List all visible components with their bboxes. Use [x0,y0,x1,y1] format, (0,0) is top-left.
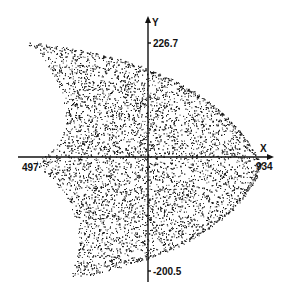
scatter-point [157,140,158,141]
scatter-point [56,75,57,76]
scatter-point [110,68,111,69]
scatter-point [78,82,79,83]
scatter-point [113,179,114,180]
scatter-point [74,176,75,177]
scatter-point [233,190,234,191]
scatter-point [30,45,31,46]
scatter-point [88,105,89,106]
scatter-point [126,71,127,72]
scatter-point [103,232,104,233]
scatter-point [97,131,98,132]
scatter-point [222,123,223,124]
scatter-point [196,141,197,142]
scatter-point [154,117,155,118]
scatter-point [215,143,216,144]
scatter-point [94,200,95,201]
scatter-point [169,104,170,105]
scatter-point [167,78,168,79]
scatter-point [57,81,58,82]
scatter-point [71,122,72,123]
scatter-point [101,146,102,147]
scatter-point [93,69,94,70]
scatter-point [80,180,81,181]
scatter-point [100,86,101,87]
scatter-point [67,167,68,168]
scatter-point [77,69,78,70]
scatter-point [221,165,222,166]
scatter-point [117,102,118,103]
scatter-point [76,103,77,104]
scatter-point [108,110,109,111]
scatter-point [115,106,116,107]
scatter-point [89,252,90,253]
scatter-point [105,83,106,84]
scatter-point [188,93,189,94]
scatter-point [206,189,207,190]
scatter-point [163,245,164,246]
scatter-point [29,45,30,46]
scatter-point [89,174,90,175]
scatter-point [67,130,68,131]
scatter-point [112,170,113,171]
scatter-point [157,119,158,120]
scatter-point [202,208,203,209]
scatter-point [188,131,189,132]
scatter-point [156,164,157,165]
scatter-point [111,209,112,210]
scatter-point [151,148,152,149]
scatter-point [172,145,173,146]
scatter-point [195,214,196,215]
scatter-point [106,61,107,62]
scatter-point [158,190,159,191]
scatter-point [106,158,107,159]
scatter-point [232,191,233,192]
scatter-point [120,87,121,88]
scatter-point [237,199,238,200]
scatter-point [188,194,189,195]
scatter-point [185,124,186,125]
scatter-point [179,86,180,87]
scatter-point [175,113,176,114]
scatter-point [126,191,127,192]
scatter-point [135,222,136,223]
scatter-point [215,214,216,215]
scatter-point [121,253,122,254]
scatter-point [237,162,238,163]
scatter-point [157,137,158,138]
scatter-point [228,143,229,144]
scatter-point [227,124,228,125]
scatter-point [217,139,218,140]
scatter-point [57,46,58,47]
scatter-point [90,275,91,276]
scatter-point [152,238,153,239]
scatter-point [116,113,117,114]
scatter-point [192,196,193,197]
scatter-point [179,194,180,195]
scatter-point [127,174,128,175]
scatter-point [210,104,211,105]
scatter-point [98,253,99,254]
scatter-point [143,70,144,71]
scatter-point [98,272,99,273]
scatter-point [86,169,87,170]
scatter-point [223,114,224,115]
scatter-point [88,129,89,130]
scatter-point [118,219,119,220]
scatter-point [220,217,221,218]
scatter-point [135,233,136,234]
scatter-point [115,69,116,70]
scatter-point [167,103,168,104]
scatter-point [160,127,161,128]
scatter-point [142,94,143,95]
scatter-point [95,190,96,191]
scatter-point [140,70,141,71]
scatter-point [142,178,143,179]
scatter-point [170,178,171,179]
scatter-point [145,235,146,236]
scatter-point [174,129,175,130]
scatter-point [196,163,197,164]
scatter-point [117,232,118,233]
scatter-point [183,226,184,227]
scatter-point [221,175,222,176]
scatter-point [225,189,226,190]
